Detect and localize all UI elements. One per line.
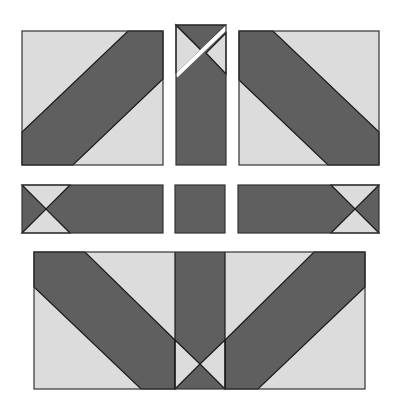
- piece-bottom-assembled: [34, 252, 365, 389]
- piece-top-middle: [176, 25, 228, 165]
- piece-middle-left: [22, 185, 163, 233]
- puzzle-diagram: [0, 0, 398, 407]
- piece-top-left: [22, 31, 163, 165]
- piece-top-right: [239, 31, 379, 165]
- piece-middle-center: [175, 185, 225, 233]
- piece-middle-right: [238, 185, 379, 233]
